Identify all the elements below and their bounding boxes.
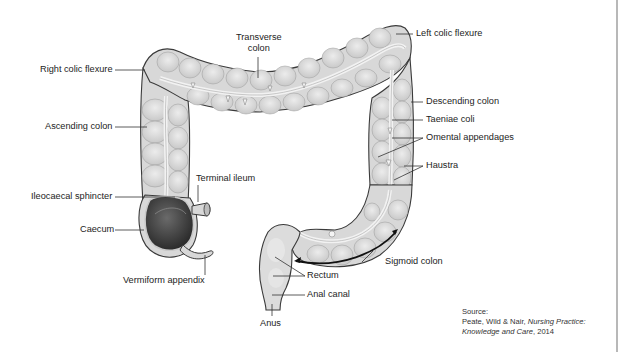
label-sigmoid-colon: Sigmoid colon bbox=[385, 256, 443, 267]
terminal-ileum bbox=[192, 203, 210, 216]
label-anal-canal: Anal canal bbox=[307, 289, 350, 300]
label-omental-appendages: Omental appendages bbox=[426, 132, 514, 143]
label-taeniae-coli: Taeniae coli bbox=[426, 114, 475, 125]
label-right-colic-flexure: Right colic flexure bbox=[40, 64, 113, 75]
colon-anatomy-diagram: Transverse colon Left colic flexure Righ… bbox=[0, 0, 628, 352]
label-anus: Anus bbox=[260, 318, 281, 329]
source-title: Nursing Practice: bbox=[528, 317, 586, 326]
label-left-colic-flexure: Left colic flexure bbox=[416, 28, 482, 39]
vermiform-appendix bbox=[180, 245, 213, 259]
label-ascending-colon: Ascending colon bbox=[45, 121, 112, 132]
label-ileocaecal-sphincter: Ileocaecal sphincter bbox=[31, 191, 112, 202]
source-line1: Peate, Wild & Nair, Nursing Practice: bbox=[462, 317, 586, 327]
label-transverse-colon: Transverse colon bbox=[236, 32, 282, 54]
source-line2: Knowledge and Care, 2014 bbox=[462, 327, 586, 337]
caecum bbox=[139, 195, 197, 257]
source-heading: Source: bbox=[462, 307, 586, 317]
label-terminal-ileum: Terminal ileum bbox=[196, 173, 255, 184]
label-haustra: Haustra bbox=[426, 160, 458, 171]
label-transverse-colon-line1: Transverse bbox=[236, 32, 282, 43]
right-border-line bbox=[616, 0, 618, 352]
label-rectum: Rectum bbox=[307, 270, 339, 281]
sigmoid-colon bbox=[292, 185, 412, 267]
source-authors: Peate, Wild & Nair, bbox=[462, 317, 528, 326]
source-citation: Source: Peate, Wild & Nair, Nursing Prac… bbox=[462, 307, 586, 337]
label-vermiform-appendix: Vermiform appendix bbox=[123, 275, 205, 286]
label-transverse-colon-line2: colon bbox=[236, 43, 282, 54]
source-year: , 2014 bbox=[533, 327, 554, 336]
source-title-cont: Knowledge and Care bbox=[462, 327, 533, 336]
rectum bbox=[260, 225, 300, 311]
label-descending-colon: Descending colon bbox=[426, 96, 499, 107]
label-caecum: Caecum bbox=[80, 224, 114, 235]
